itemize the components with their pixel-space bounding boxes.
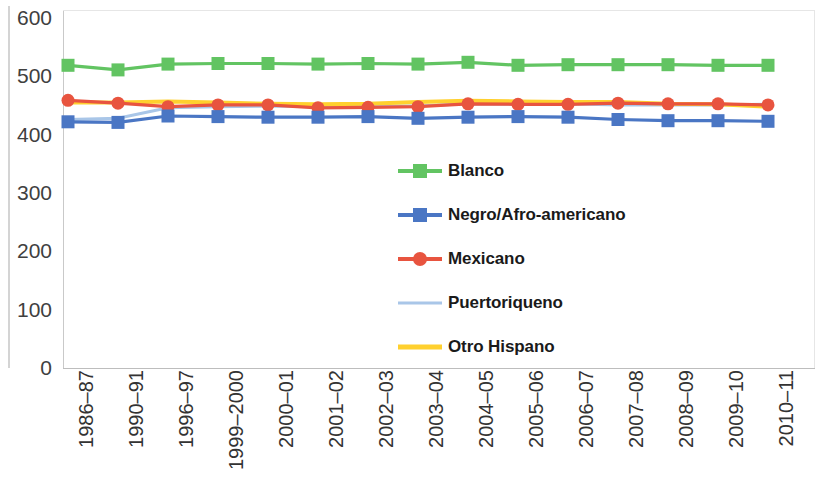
legend-swatch xyxy=(398,162,442,180)
data-point-marker xyxy=(462,97,475,110)
data-point-marker xyxy=(462,56,475,69)
data-point-marker xyxy=(212,57,225,70)
x-tick-label: 2007–08 xyxy=(626,370,646,490)
data-point-marker xyxy=(112,63,125,76)
legend-label: Mexicano xyxy=(448,249,525,269)
x-tick-label: 1990–91 xyxy=(126,370,146,490)
x-tick-label: 1999–2000 xyxy=(226,370,246,490)
legend-line xyxy=(398,302,442,305)
legend-line xyxy=(398,345,442,350)
legend-label: Blanco xyxy=(448,161,504,181)
data-point-marker xyxy=(762,98,775,111)
legend-marker-square xyxy=(413,164,427,178)
legend-item-negro-afro-americano[interactable]: Negro/Afro-americano xyxy=(398,202,625,228)
data-point-marker xyxy=(162,58,175,71)
data-point-marker xyxy=(112,97,125,110)
legend-swatch xyxy=(398,206,442,224)
legend-item-otro-hispano[interactable]: Otro Hispano xyxy=(398,334,554,360)
x-tick-label: 2006–07 xyxy=(576,370,596,490)
x-tick-label: 2005–06 xyxy=(526,370,546,490)
data-point-marker xyxy=(412,58,425,71)
legend-item-mexicano[interactable]: Mexicano xyxy=(398,246,525,272)
legend-label: Puertoriqueno xyxy=(448,293,563,313)
data-point-marker xyxy=(662,58,675,71)
legend-marker-circle xyxy=(413,252,427,266)
data-point-marker xyxy=(512,59,525,72)
data-point-marker xyxy=(212,98,225,111)
data-point-marker xyxy=(62,94,75,107)
data-point-marker xyxy=(412,100,425,113)
data-point-marker xyxy=(712,59,725,72)
data-point-marker xyxy=(562,58,575,71)
x-tick-label: 1986–87 xyxy=(76,370,96,490)
data-point-marker xyxy=(612,97,625,110)
x-axis: 1986–871990–911996–971999–20002000–01200… xyxy=(0,372,824,496)
x-tick-label: 2010–11 xyxy=(776,370,796,490)
data-point-marker xyxy=(362,57,375,70)
legend-item-blanco[interactable]: Blanco xyxy=(398,158,504,184)
data-point-marker xyxy=(462,111,475,124)
data-point-marker xyxy=(762,59,775,72)
series-blanco xyxy=(62,56,775,77)
x-tick-label: 2009–10 xyxy=(726,370,746,490)
data-point-marker xyxy=(262,98,275,111)
data-point-marker xyxy=(512,110,525,123)
data-point-marker xyxy=(262,57,275,70)
data-point-marker xyxy=(412,112,425,125)
data-point-marker xyxy=(362,110,375,123)
data-point-marker xyxy=(262,111,275,124)
x-tick-label: 2004–05 xyxy=(476,370,496,490)
chart-legend: BlancoNegro/Afro-americanoMexicanoPuerto… xyxy=(398,158,658,364)
legend-marker-square xyxy=(413,208,427,222)
legend-label: Negro/Afro-americano xyxy=(448,205,625,225)
data-point-marker xyxy=(712,114,725,127)
data-point-marker xyxy=(612,58,625,71)
legend-item-puertoriqueno[interactable]: Puertoriqueno xyxy=(398,290,563,316)
line-chart: 6005004003002001000 1986–871990–911996–9… xyxy=(0,0,824,496)
data-point-marker xyxy=(512,98,525,111)
data-point-marker xyxy=(212,110,225,123)
data-point-marker xyxy=(762,115,775,128)
data-point-marker xyxy=(312,111,325,124)
data-point-marker xyxy=(62,59,75,72)
data-point-marker xyxy=(62,115,75,128)
legend-label: Otro Hispano xyxy=(448,337,554,357)
data-point-marker xyxy=(312,58,325,71)
legend-swatch xyxy=(398,338,442,356)
x-tick-label: 2002–03 xyxy=(376,370,396,490)
legend-swatch xyxy=(398,250,442,268)
data-point-marker xyxy=(662,97,675,110)
x-tick-label: 2000–01 xyxy=(276,370,296,490)
data-point-marker xyxy=(162,110,175,123)
data-point-marker xyxy=(562,98,575,111)
data-point-marker xyxy=(112,116,125,129)
data-point-marker xyxy=(612,113,625,126)
x-tick-label: 2001–02 xyxy=(326,370,346,490)
x-tick-label: 1996–97 xyxy=(176,370,196,490)
data-point-marker xyxy=(712,97,725,110)
legend-swatch xyxy=(398,294,442,312)
data-point-marker xyxy=(562,111,575,124)
series-negro-afro-americano xyxy=(62,110,775,129)
x-tick-label: 2003–04 xyxy=(426,370,446,490)
x-tick-label: 2008–09 xyxy=(676,370,696,490)
data-point-marker xyxy=(662,114,675,127)
